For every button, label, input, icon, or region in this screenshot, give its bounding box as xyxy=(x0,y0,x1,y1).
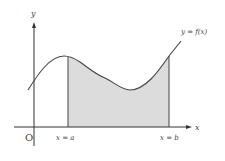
origin-label: O xyxy=(25,132,33,143)
y-axis-label: y xyxy=(30,9,36,18)
x-axis-label: x xyxy=(195,123,200,132)
area-under-curve-diagram: y x O y = f(x) x = a x = b xyxy=(0,0,225,161)
shaded-area-region xyxy=(68,56,169,127)
bound-label-a: x = a xyxy=(56,134,74,142)
y-axis-arrow-icon xyxy=(32,22,36,28)
bound-label-b: x = b xyxy=(160,134,179,142)
curve-label: y = f(x) xyxy=(180,28,208,36)
x-axis-arrow-icon xyxy=(186,125,192,129)
